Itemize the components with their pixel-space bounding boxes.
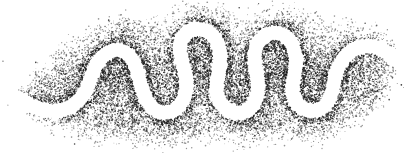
- stipple-illustration-canvas: [0, 0, 405, 159]
- stipple-figure-root: Meandering river channel in stipple: [0, 0, 405, 159]
